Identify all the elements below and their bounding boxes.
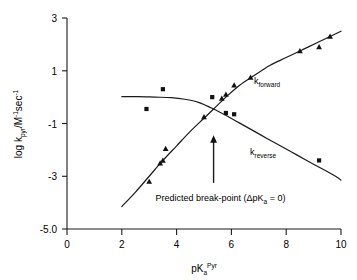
data-point-k_forward bbox=[163, 146, 169, 151]
y-tick-label-4: -5.0 bbox=[40, 224, 58, 235]
y-axis-tick-labels: 3 1 -1 -3 -5.0 bbox=[40, 13, 58, 235]
x-axis-ticks bbox=[67, 229, 341, 235]
x-axis-title-sub: a bbox=[203, 269, 207, 276]
y-tick-label-2: -1 bbox=[48, 119, 57, 130]
x-tick-label-2: 4 bbox=[174, 239, 180, 250]
scatter-plot: 3 1 -1 -3 -5.0 0 2 4 6 8 10 pKaPyr bbox=[0, 0, 357, 280]
data-point-k_forward bbox=[297, 48, 303, 53]
data-point-k_reverse bbox=[317, 158, 321, 162]
y-tick-label-3: -3 bbox=[48, 171, 57, 182]
x-tick-label-1: 2 bbox=[119, 239, 125, 250]
y-axis-title-unit: sec bbox=[13, 96, 24, 112]
chart-figure: 3 1 -1 -3 -5.0 0 2 4 6 8 10 pKaPyr bbox=[0, 0, 357, 280]
x-tick-label-3: 6 bbox=[229, 239, 235, 250]
y-axis-title-mid: /M bbox=[13, 117, 24, 128]
y-tick-label-1: 1 bbox=[51, 66, 57, 77]
x-tick-label-4: 8 bbox=[283, 239, 289, 250]
data-point-k_reverse bbox=[210, 95, 214, 99]
data-point-k_forward bbox=[327, 34, 333, 39]
data-point-k_forward bbox=[316, 44, 322, 49]
x-axis-title: pKaPyr bbox=[191, 262, 217, 276]
x-tick-label-5: 10 bbox=[335, 239, 347, 250]
y-axis-title: log kpyr/M-1sec-1 bbox=[12, 89, 27, 158]
annot-suffix: = 0) bbox=[267, 193, 285, 203]
x-axis-title-sup: Pyr bbox=[207, 262, 218, 270]
x-axis-tick-labels: 0 2 4 6 8 10 bbox=[64, 239, 347, 250]
data-point-k_forward bbox=[223, 92, 229, 97]
annot-prefix: Predicted break-point ( bbox=[155, 193, 246, 203]
data-point-k_reverse bbox=[232, 112, 236, 116]
curve-label-k-reverse-sub: reverse bbox=[255, 152, 277, 159]
curve-label-k-forward-sub: forward bbox=[259, 81, 281, 88]
data-point-k_forward bbox=[231, 82, 237, 87]
data-point-k_reverse bbox=[144, 107, 148, 111]
x-axis-title-base: pK bbox=[191, 263, 204, 274]
x-tick-label-0: 0 bbox=[64, 239, 70, 250]
data-points-k-forward bbox=[146, 34, 333, 184]
curve-label-k-forward: kforward bbox=[254, 76, 281, 88]
annot-pk: pK bbox=[253, 193, 264, 203]
y-axis-ticks bbox=[62, 18, 67, 229]
curve-label-k-reverse: kreverse bbox=[250, 147, 277, 159]
y-axis-title-base: log k bbox=[13, 136, 24, 158]
data-point-k_reverse bbox=[224, 111, 228, 115]
arrow-head-icon bbox=[210, 135, 217, 143]
data-point-k_reverse bbox=[161, 87, 165, 91]
break-point-arrow bbox=[210, 135, 217, 182]
break-point-annotation-text: Predicted break-point (ΔpKa = 0) bbox=[155, 193, 285, 205]
y-axis-title-sup2: -1 bbox=[12, 89, 19, 95]
fit-curve-k-reverse bbox=[122, 97, 341, 181]
y-tick-label-0: 3 bbox=[51, 13, 57, 24]
